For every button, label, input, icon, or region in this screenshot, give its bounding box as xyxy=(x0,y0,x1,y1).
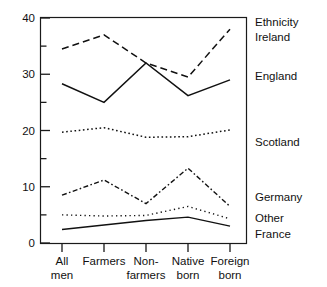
x-category-label-4: born xyxy=(218,269,241,281)
x-category-label-0: men xyxy=(51,269,73,281)
x-category-label-3: Native xyxy=(172,255,205,267)
legend-title: Ethnicity xyxy=(255,16,299,28)
series-label-group: EthnicityIrelandEnglandScotlandGermanyOt… xyxy=(255,16,303,240)
y-tick-label-30: 30 xyxy=(22,68,35,80)
series-line-france xyxy=(62,217,230,229)
y-tick-label-10: 10 xyxy=(22,181,35,193)
line-chart: 010203040 AllmenFarmersNon-farmersNative… xyxy=(0,0,327,287)
series-line-ireland xyxy=(62,29,230,77)
series-label-scotland: Scotland xyxy=(255,136,300,148)
x-category-label-2: Non- xyxy=(134,255,159,267)
series-label-other: Other xyxy=(255,212,284,224)
series-label-france: France xyxy=(255,228,291,240)
series-line-other xyxy=(62,206,230,218)
y-axis-ticks xyxy=(41,18,50,243)
y-axis-tick-labels: 010203040 xyxy=(22,12,35,249)
series-label-ireland: Ireland xyxy=(255,31,290,43)
x-category-label-3: born xyxy=(176,269,199,281)
series-label-germany: Germany xyxy=(255,191,303,203)
series-line-scotland xyxy=(62,128,230,138)
series-line-germany xyxy=(62,168,230,206)
data-series-group xyxy=(62,29,230,229)
x-axis-ticks xyxy=(62,243,230,252)
x-category-label-4: Foreign xyxy=(211,255,250,267)
chart-canvas: 010203040 AllmenFarmersNon-farmersNative… xyxy=(0,0,327,287)
x-category-label-1: Farmers xyxy=(83,255,126,267)
x-category-label-0: All xyxy=(56,255,69,267)
x-category-label-2: farmers xyxy=(127,269,166,281)
x-axis-category-labels: AllmenFarmersNon-farmersNativebornForeig… xyxy=(51,255,250,281)
series-label-england: England xyxy=(255,70,297,82)
y-tick-label-0: 0 xyxy=(29,237,35,249)
series-line-england xyxy=(62,63,230,102)
y-tick-label-20: 20 xyxy=(22,125,35,137)
y-tick-label-40: 40 xyxy=(22,12,35,24)
